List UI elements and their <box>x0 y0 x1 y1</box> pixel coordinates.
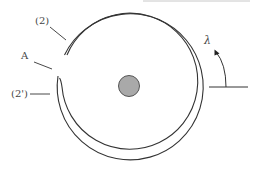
leader-line-gap <box>34 62 52 69</box>
label-lambda: λ <box>204 35 211 46</box>
rotation-arrow-shaft <box>216 52 226 87</box>
leader-line-top <box>50 27 66 40</box>
label-gap-a: A <box>21 51 28 61</box>
center-core <box>119 76 140 97</box>
rotation-arrow-head-icon <box>215 50 220 56</box>
label-top-2: (2) <box>35 16 49 26</box>
label-lower-2prime: (2') <box>11 89 28 99</box>
